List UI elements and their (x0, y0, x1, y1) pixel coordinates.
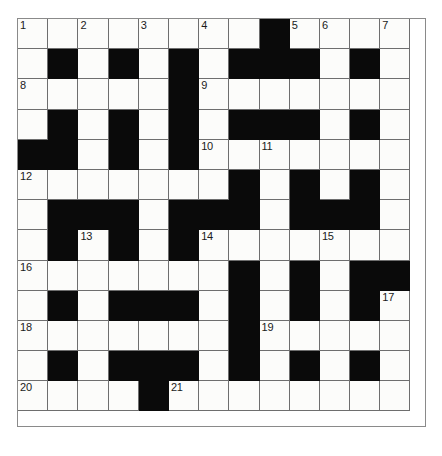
crossword-cell[interactable] (199, 290, 229, 320)
crossword-cell[interactable] (78, 351, 108, 381)
crossword-cell[interactable]: 1 (18, 19, 48, 49)
crossword-cell[interactable]: 6 (319, 19, 349, 49)
crossword-cell[interactable] (229, 19, 259, 49)
crossword-cell[interactable] (78, 381, 108, 411)
crossword-cell[interactable] (78, 260, 108, 290)
crossword-cell[interactable]: 5 (289, 19, 319, 49)
crossword-cell[interactable] (380, 79, 410, 109)
crossword-cell[interactable] (380, 139, 410, 169)
crossword-cell[interactable] (199, 169, 229, 199)
crossword-cell[interactable] (138, 109, 168, 139)
crossword-cell[interactable] (108, 169, 138, 199)
crossword-cell[interactable] (380, 169, 410, 199)
crossword-cell[interactable] (259, 230, 289, 260)
crossword-cell[interactable]: 17 (380, 290, 410, 320)
crossword-cell[interactable] (138, 320, 168, 350)
crossword-cell[interactable] (199, 49, 229, 79)
crossword-cell[interactable] (199, 109, 229, 139)
crossword-cell[interactable]: 18 (18, 320, 48, 350)
crossword-cell[interactable] (319, 260, 349, 290)
crossword-cell[interactable] (259, 260, 289, 290)
crossword-cell[interactable] (18, 351, 48, 381)
crossword-cell[interactable] (108, 260, 138, 290)
crossword-cell[interactable] (108, 381, 138, 411)
crossword-cell[interactable] (229, 79, 259, 109)
crossword-cell[interactable]: 14 (199, 230, 229, 260)
crossword-cell[interactable] (380, 320, 410, 350)
crossword-cell[interactable] (319, 109, 349, 139)
crossword-cell[interactable] (350, 320, 380, 350)
crossword-cell[interactable] (48, 320, 78, 350)
crossword-cell[interactable] (259, 381, 289, 411)
crossword-cell[interactable] (78, 320, 108, 350)
crossword-cell[interactable]: 16 (18, 260, 48, 290)
crossword-cell[interactable] (48, 260, 78, 290)
crossword-cell[interactable] (168, 320, 198, 350)
crossword-cell[interactable] (168, 19, 198, 49)
crossword-cell[interactable]: 2 (78, 19, 108, 49)
crossword-cell[interactable] (108, 19, 138, 49)
crossword-cell[interactable]: 10 (199, 139, 229, 169)
crossword-cell[interactable] (289, 230, 319, 260)
crossword-cell[interactable] (319, 169, 349, 199)
crossword-cell[interactable]: 15 (319, 230, 349, 260)
crossword-cell[interactable] (138, 260, 168, 290)
crossword-cell[interactable] (18, 200, 48, 230)
crossword-cell[interactable] (319, 351, 349, 381)
crossword-cell[interactable] (48, 79, 78, 109)
crossword-cell[interactable] (259, 200, 289, 230)
crossword-cell[interactable] (199, 351, 229, 381)
crossword-cell[interactable]: 9 (199, 79, 229, 109)
crossword-cell[interactable] (380, 49, 410, 79)
crossword-cell[interactable] (199, 320, 229, 350)
crossword-cell[interactable] (380, 351, 410, 381)
crossword-cell[interactable]: 4 (199, 19, 229, 49)
crossword-cell[interactable]: 19 (259, 320, 289, 350)
crossword-cell[interactable] (138, 200, 168, 230)
crossword-cell[interactable] (289, 320, 319, 350)
crossword-grid[interactable]: 123456789101112131415161718192021 (17, 18, 410, 411)
crossword-cell[interactable]: 20 (18, 381, 48, 411)
crossword-cell[interactable] (289, 79, 319, 109)
crossword-cell[interactable] (319, 139, 349, 169)
crossword-cell[interactable] (319, 49, 349, 79)
crossword-cell[interactable] (229, 230, 259, 260)
crossword-cell[interactable] (78, 49, 108, 79)
crossword-cell[interactable] (78, 169, 108, 199)
crossword-cell[interactable] (168, 260, 198, 290)
crossword-cell[interactable] (78, 290, 108, 320)
crossword-cell[interactable]: 7 (380, 19, 410, 49)
crossword-cell[interactable] (48, 19, 78, 49)
crossword-cell[interactable] (138, 139, 168, 169)
crossword-cell[interactable] (319, 320, 349, 350)
crossword-cell[interactable] (168, 169, 198, 199)
crossword-cell[interactable] (259, 290, 289, 320)
crossword-cell[interactable] (319, 381, 349, 411)
crossword-cell[interactable] (229, 139, 259, 169)
crossword-cell[interactable] (319, 79, 349, 109)
crossword-cell[interactable] (380, 381, 410, 411)
crossword-cell[interactable] (380, 109, 410, 139)
crossword-cell[interactable]: 13 (78, 230, 108, 260)
crossword-cell[interactable] (259, 169, 289, 199)
crossword-cell[interactable]: 12 (18, 169, 48, 199)
crossword-cell[interactable] (350, 230, 380, 260)
crossword-cell[interactable] (48, 381, 78, 411)
crossword-cell[interactable] (259, 79, 289, 109)
crossword-cell[interactable] (18, 109, 48, 139)
crossword-cell[interactable] (18, 230, 48, 260)
crossword-cell[interactable] (259, 351, 289, 381)
crossword-cell[interactable] (78, 139, 108, 169)
crossword-cell[interactable] (380, 200, 410, 230)
crossword-cell[interactable] (350, 381, 380, 411)
crossword-cell[interactable] (289, 381, 319, 411)
crossword-cell[interactable] (289, 139, 319, 169)
crossword-cell[interactable] (138, 230, 168, 260)
crossword-cell[interactable] (78, 79, 108, 109)
crossword-cell[interactable] (350, 139, 380, 169)
crossword-cell[interactable] (108, 320, 138, 350)
crossword-cell[interactable] (199, 381, 229, 411)
crossword-cell[interactable] (138, 79, 168, 109)
crossword-cell[interactable] (78, 109, 108, 139)
crossword-cell[interactable] (199, 260, 229, 290)
